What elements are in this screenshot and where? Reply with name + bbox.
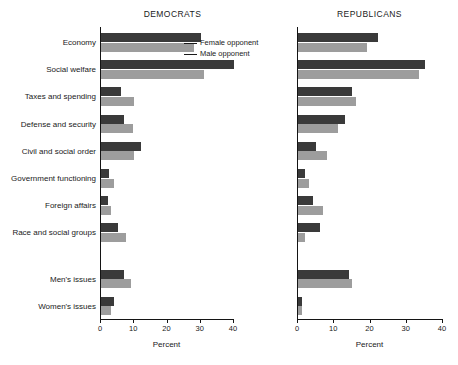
legend-line-icon — [184, 54, 197, 55]
bar-male — [101, 206, 111, 215]
x-axis-tick-label: 30 — [402, 324, 410, 333]
bar-male — [101, 97, 134, 106]
bar-male — [298, 233, 305, 242]
category-label: Government functioning — [11, 174, 96, 183]
x-axis-tick-label: 20 — [365, 324, 373, 333]
bar-male — [298, 206, 323, 215]
bar-male — [101, 70, 204, 79]
x-axis-tick-label: 0 — [98, 324, 102, 333]
bar-female — [298, 270, 349, 279]
x-axis-tick — [133, 319, 134, 323]
panel-title-democrats: DEMOCRATS — [100, 9, 245, 19]
x-axis-tick — [442, 319, 443, 323]
bar-male — [298, 70, 419, 79]
figure: DEMOCRATS EconomySocial welfareTaxes and… — [0, 0, 458, 365]
category-label: Taxes and spending — [25, 92, 96, 101]
category-label: Race and social groups — [12, 228, 96, 237]
bar-male — [298, 306, 302, 315]
bar-female — [101, 142, 141, 151]
panel-republicans: REPUBLICANS 010203040 Percent — [245, 0, 458, 365]
bar-female — [101, 169, 109, 178]
category-label: Social welfare — [46, 65, 96, 74]
bar-female — [298, 223, 320, 232]
bar-male — [101, 179, 114, 188]
bar-male — [101, 306, 111, 315]
bar-female — [101, 115, 124, 124]
category-label: Civil and social order — [22, 147, 96, 156]
bar-female — [298, 33, 378, 42]
panel-title-republicans: REPUBLICANS — [297, 9, 442, 19]
bar-male — [101, 279, 131, 288]
x-axis-tick — [333, 319, 334, 323]
bar-male — [298, 124, 338, 133]
x-axis-tick-label: 40 — [229, 324, 237, 333]
x-axis-tick — [200, 319, 201, 323]
x-axis-title-democrats: Percent — [100, 340, 233, 349]
bar-female — [101, 297, 114, 306]
bar-female — [101, 87, 121, 96]
x-axis-tick — [100, 319, 101, 323]
bar-female — [101, 270, 124, 279]
bar-female — [298, 196, 313, 205]
bar-male — [101, 43, 194, 52]
x-axis-title-republicans: Percent — [297, 340, 442, 349]
category-label: Women's issues — [38, 302, 96, 311]
x-axis-tick — [233, 319, 234, 323]
category-label: Men's issues — [50, 275, 96, 284]
x-axis-tick — [297, 319, 298, 323]
plot-area-republicans: 010203040 — [297, 27, 442, 319]
bar-male — [298, 151, 327, 160]
legend-label-male: Male opponent — [200, 49, 250, 58]
x-axis-tick — [370, 319, 371, 323]
x-axis-tick-label: 40 — [438, 324, 446, 333]
bar-female — [298, 115, 345, 124]
category-label: Foreign affairs — [45, 201, 96, 210]
bar-female — [101, 196, 108, 205]
bar-male — [101, 151, 134, 160]
category-label: Defense and security — [21, 120, 96, 129]
bar-female — [298, 60, 425, 69]
bar-male — [101, 124, 133, 133]
legend-line-icon — [184, 43, 197, 44]
x-axis-tick — [406, 319, 407, 323]
bar-male — [298, 97, 356, 106]
plot-area-democrats: 010203040 — [100, 27, 233, 319]
x-axis-tick-label: 30 — [196, 324, 204, 333]
bar-female — [298, 87, 352, 96]
bar-male — [101, 233, 126, 242]
category-label: Economy — [63, 38, 96, 47]
x-axis-tick-label: 10 — [329, 324, 337, 333]
category-axis-labels: EconomySocial welfareTaxes and spendingD… — [0, 27, 96, 319]
bar-male — [298, 43, 367, 52]
panel-democrats: DEMOCRATS EconomySocial welfareTaxes and… — [0, 0, 245, 365]
bar-male — [298, 279, 352, 288]
x-axis-tick — [167, 319, 168, 323]
x-axis-tick-label: 0 — [295, 324, 299, 333]
bar-male — [298, 179, 309, 188]
bar-female — [298, 142, 316, 151]
bar-female — [298, 297, 302, 306]
bar-female — [101, 223, 118, 232]
bar-female — [298, 169, 305, 178]
bar-female — [101, 60, 234, 69]
x-axis-tick-label: 20 — [162, 324, 170, 333]
x-axis-tick-label: 10 — [129, 324, 137, 333]
